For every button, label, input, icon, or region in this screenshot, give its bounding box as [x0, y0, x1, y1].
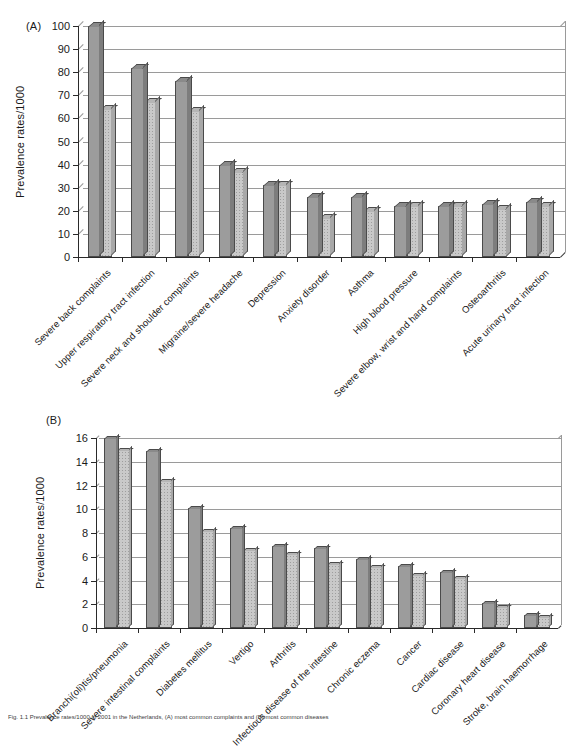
bar-series-1: [356, 559, 369, 628]
bar-series-1: [104, 438, 117, 628]
bar-group: [438, 26, 463, 257]
y-axis-tick-label: 6: [82, 551, 88, 562]
bar-side-face: [199, 105, 204, 256]
bar-series-1: [524, 615, 537, 628]
x-axis-line: [96, 628, 558, 629]
bar-group: [175, 26, 200, 257]
x-axis-tick-mark: [516, 628, 517, 633]
y-axis-tick-label: 2: [82, 599, 88, 610]
x-axis-tick-mark: [516, 257, 517, 262]
x-axis-tick-mark: [138, 628, 139, 633]
y-axis-tick-label: 16: [76, 433, 88, 444]
y-axis-tick-label: 10: [76, 504, 88, 515]
y-axis-tick-label: 30: [58, 182, 70, 193]
bar-series-1: [230, 528, 243, 628]
x-axis-tick-mark: [166, 257, 167, 262]
x-axis-tick-mark: [385, 257, 386, 262]
bar-side-face: [99, 20, 104, 256]
bar-side-face: [549, 200, 554, 256]
y-axis-line: [78, 26, 79, 257]
bar-series-1: [440, 572, 453, 628]
bar-side-face: [200, 504, 203, 627]
y-axis-tick-label: 20: [58, 205, 70, 216]
bar-side-face: [255, 546, 258, 627]
bar-side-face: [242, 524, 245, 627]
bar-group: [351, 26, 376, 257]
bar-side-face: [230, 159, 235, 256]
x-axis-tick-mark: [306, 628, 307, 633]
plot-depth-right-edge: [565, 21, 566, 252]
chart-panel-a: (A) Prevalence rates/1000 01020304050607…: [0, 6, 580, 371]
bar-side-face: [410, 562, 413, 627]
bar-side-face: [116, 434, 119, 627]
bar-series-1: [394, 206, 406, 257]
x-axis-category-label: Asthma: [345, 267, 376, 298]
x-axis-tick-mark: [472, 257, 473, 262]
bar-series-1: [188, 508, 201, 628]
y-axis-tick-label: 70: [58, 90, 70, 101]
bar-side-face: [506, 203, 511, 257]
x-axis-tick-mark: [429, 257, 430, 262]
x-axis-tick-mark: [122, 257, 123, 262]
x-axis-tick-mark: [253, 257, 254, 262]
bar-series-1: [482, 204, 494, 257]
bar-group: [219, 26, 244, 257]
panel-b-y-axis-label: Prevalence rates/1000: [34, 477, 46, 589]
bar-side-face: [129, 446, 132, 627]
bar-series-1: [131, 68, 143, 257]
bar-side-face: [381, 563, 384, 627]
panel-a-letter: (A): [26, 20, 41, 32]
bar-group: [104, 438, 129, 628]
bar-side-face: [330, 212, 335, 256]
bar-side-face: [549, 613, 552, 627]
bar-side-face: [374, 205, 379, 256]
bar-side-face: [143, 62, 148, 256]
bar-group: [314, 438, 339, 628]
x-axis-category-label: Severe back complaints: [32, 267, 113, 348]
y-axis-tick-label: 12: [76, 480, 88, 491]
x-axis-category-label: Acute urinary tract infection: [460, 267, 551, 358]
bar-side-face: [297, 550, 300, 627]
bar-side-face: [418, 200, 423, 256]
x-axis-category-label: Coronary heart disease: [429, 638, 508, 717]
y-axis-tick-label: 80: [58, 67, 70, 78]
x-axis-category-label: Arthritis: [267, 638, 298, 669]
y-axis-tick-label: 100: [52, 21, 70, 32]
bar-side-face: [111, 103, 116, 256]
bar-group: [482, 26, 507, 257]
bar-series-1: [482, 603, 495, 628]
bar-side-face: [213, 527, 216, 627]
x-axis-tick-mark: [297, 257, 298, 262]
y-axis-tick-label: 4: [82, 575, 88, 586]
bar-side-face: [326, 544, 329, 627]
y-axis-tick-label: 40: [58, 159, 70, 170]
x-axis-category-label: Vertigo: [227, 638, 256, 667]
bar-series-1: [175, 81, 187, 257]
bar-group: [146, 438, 171, 628]
bar-series-1: [351, 197, 363, 257]
bar-side-face: [155, 96, 160, 256]
bar-series-1: [88, 26, 100, 257]
bar-group: [230, 438, 255, 628]
bar-series-1: [272, 546, 285, 628]
bar-side-face: [339, 560, 342, 627]
x-axis-line: [78, 257, 560, 258]
bar-group: [131, 26, 156, 257]
bar-group: [526, 26, 551, 257]
bar-group: [188, 438, 213, 628]
bar-side-face: [494, 599, 497, 627]
x-axis-tick-mark: [222, 628, 223, 633]
bar-series-1: [438, 206, 450, 257]
panel-a-plot-area: 0102030405060708090100: [78, 26, 560, 257]
y-axis-tick-label: 10: [58, 228, 70, 239]
bar-side-face: [406, 200, 411, 256]
bar-side-face: [274, 179, 279, 256]
panel-a-y-axis-label: Prevalence rates/1000: [14, 85, 26, 197]
bar-group: [482, 438, 507, 628]
bar-side-face: [158, 447, 161, 627]
x-axis-tick-mark: [348, 628, 349, 633]
y-axis-tick-label: 14: [76, 456, 88, 467]
bar-group: [356, 438, 381, 628]
x-axis-tick-mark: [390, 628, 391, 633]
figure-caption: Fig. 1.1 Prevalence rates/1000 in 2001 i…: [8, 714, 572, 724]
